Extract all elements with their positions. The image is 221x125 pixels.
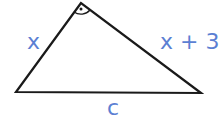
label-leg-left: x [27, 31, 40, 53]
right-angle-dot [80, 8, 83, 11]
label-hypotenuse: c [107, 97, 119, 119]
label-leg-right: x + 3 [160, 31, 219, 53]
